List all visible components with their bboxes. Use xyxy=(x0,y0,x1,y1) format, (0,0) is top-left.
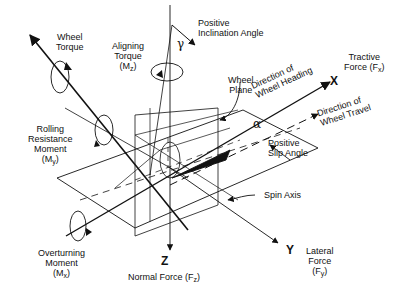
ground-plane xyxy=(57,110,318,228)
x-axis-label: X xyxy=(330,74,338,88)
positive-slip-label: Positive Slip Angle xyxy=(268,138,308,158)
y-axis-label: Y xyxy=(286,243,294,257)
lateral-force-label: Lateral Force (Fy) xyxy=(306,246,334,279)
gamma-symbol: γ xyxy=(177,37,184,51)
aligning-torque-label: Aligning Torque (Mz) xyxy=(112,41,144,74)
overturning-moment-label: Overturning Moment (Mx) xyxy=(38,248,85,281)
rolling-resistance-label: Rolling Resistance Moment (My) xyxy=(28,124,73,167)
tractive-force-label: Tractive Force (Fx) xyxy=(344,52,385,75)
positive-inclination-label: Positive Inclination Angle xyxy=(198,18,264,38)
alpha-symbol: α xyxy=(253,117,261,131)
spin-axis-label: Spin Axis xyxy=(264,190,301,200)
z-axis-label: Z xyxy=(161,254,168,268)
wheel-torque-label: Wheel Torque xyxy=(56,32,84,52)
wheel-plane-label: Wheel Plane xyxy=(228,75,254,95)
x-axis-heading xyxy=(66,82,330,236)
normal-force-label: Normal Force (Fz) xyxy=(128,272,200,285)
